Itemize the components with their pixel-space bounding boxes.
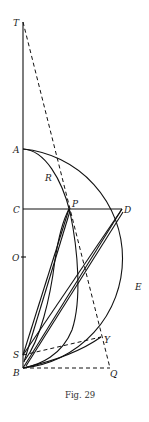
line-SP [23, 209, 69, 355]
label-E: E [134, 282, 142, 292]
label-D: D [123, 205, 131, 215]
label-R: R [44, 173, 52, 183]
label-S: S [13, 350, 19, 360]
label-P: P [71, 199, 79, 209]
label-Q: Q [110, 369, 118, 379]
label-T: T [13, 18, 20, 28]
geometry-figure: T A R C P D O E Y S B Q Fig. 29 [0, 0, 149, 422]
label-Y: Y [104, 335, 111, 345]
label-B: B [12, 368, 20, 378]
label-O: O [12, 253, 20, 263]
label-C: C [13, 205, 20, 215]
dashed-TQ [23, 22, 110, 368]
line-BP [24, 211, 70, 362]
label-A: A [12, 145, 20, 155]
line-SD [23, 209, 122, 355]
figure-caption: Fig. 29 [65, 390, 95, 400]
